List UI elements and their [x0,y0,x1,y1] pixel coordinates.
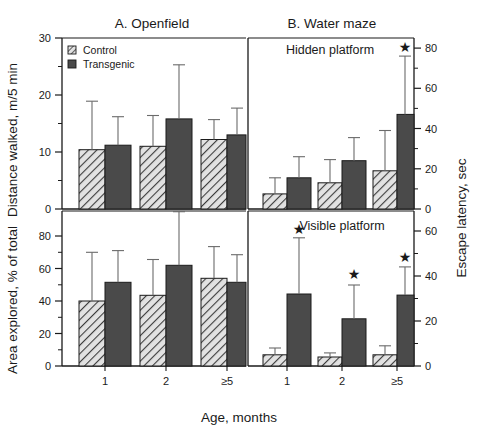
ytick-hidden-40: 40 [425,123,437,135]
ytick-distance-20: 20 [39,89,51,101]
ytick-visible-20: 20 [425,315,437,327]
bar-transgenic-1 [105,145,131,209]
significance-star: ★ [293,221,306,237]
bar-control-3 [373,171,397,209]
y-axis-title-area: Area explored, % of total [5,226,20,374]
y-axis-title-distance: Distance walked, m/5 min [5,63,20,217]
y-axis-title-latency: Escape latency, sec [454,158,469,277]
legend-label-control: Control [83,44,117,56]
significance-star: ★ [399,39,412,55]
ytick-visible-60: 60 [425,225,437,237]
bar-transgenic-2 [342,161,366,209]
legend-swatch-transgenic [68,60,76,68]
figure-root: A. Openfield B. Water maze Distance walk… [0,0,477,437]
bar-control-3 [201,278,227,366]
bar-control-2 [318,183,342,209]
ytick-distance-0: 0 [45,203,51,215]
x-axis-title: Age, months [201,410,277,425]
subtitle-hidden-platform: Hidden platform [286,43,374,57]
xtick-right-1: 1 [284,375,290,387]
bar-control-2 [140,146,166,209]
panel-b-title: B. Water maze [288,16,377,31]
bar-control-2 [140,295,166,366]
bar-transgenic-1 [287,178,311,209]
ytick-area-0: 0 [45,360,51,372]
ytick-area-20: 20 [39,328,51,340]
legend-swatch-control [68,46,76,54]
significance-star: ★ [348,266,361,282]
bar-transgenic-3 [397,295,414,366]
ytick-visible-0: 0 [425,360,431,372]
panel-a-title: A. Openfield [115,16,189,31]
bar-transgenic-1 [287,294,311,366]
bar-transgenic-2 [342,319,366,366]
ytick-area-80: 80 [39,230,51,242]
bar-control-3 [201,140,227,210]
bar-transgenic-3 [227,282,246,366]
ytick-hidden-60: 60 [425,82,437,94]
bar-transgenic-3 [227,135,246,209]
xtick-left-2: 2 [163,375,169,387]
bar-control-1 [79,301,105,366]
bar-transgenic-1 [105,282,131,366]
xtick-left-1: 1 [102,375,108,387]
ytick-visible-40: 40 [425,270,437,282]
bar-control-2 [318,357,342,366]
ytick-area-40: 40 [39,295,51,307]
ytick-hidden-20: 20 [425,163,437,175]
bar-transgenic-2 [166,119,192,209]
ytick-hidden-80: 80 [425,42,437,54]
xtick-right-3: ≥5 [391,375,403,387]
figure-svg: A. Openfield B. Water maze Distance walk… [0,0,477,437]
significance-star: ★ [399,249,412,265]
xtick-right-2: 2 [339,375,345,387]
bar-transgenic-2 [166,265,192,366]
bar-control-1 [79,150,105,209]
bar-control-1 [263,355,287,366]
legend-label-transgenic: Transgenic [83,58,135,70]
ytick-distance-30: 30 [39,32,51,44]
xtick-left-3: ≥5 [221,375,233,387]
ytick-distance-10: 10 [39,146,51,158]
bar-control-3 [373,355,397,366]
ytick-area-60: 60 [39,263,51,275]
ytick-hidden-0: 0 [425,203,431,215]
bar-transgenic-3 [397,114,414,209]
subtitle-visible-platform: Visible platform [299,219,384,233]
bar-control-1 [263,194,287,209]
